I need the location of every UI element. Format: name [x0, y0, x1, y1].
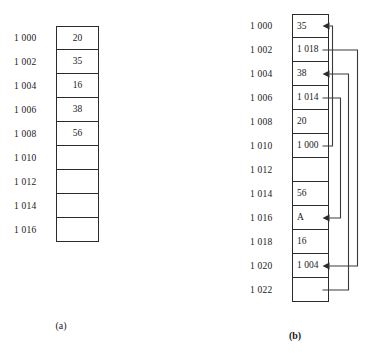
address-label: 1 016: [14, 218, 56, 242]
memory-cell: 1 018: [292, 38, 329, 62]
table-row: 1 004 16: [14, 74, 99, 98]
address-label: 1 004: [250, 62, 292, 86]
memory-cell: 20: [56, 26, 99, 50]
address-label: 1 010: [250, 134, 292, 158]
table-row: 1 014 56: [250, 182, 329, 206]
address-label: 1 016: [250, 206, 292, 230]
address-label: 1 000: [250, 14, 292, 38]
address-label: 1 006: [14, 98, 56, 122]
memory-cell: 35: [292, 14, 329, 38]
memory-cell: 56: [292, 182, 329, 206]
table-row: 1 006 38: [14, 98, 99, 122]
address-label: 1 002: [250, 38, 292, 62]
address-label: 1 014: [250, 182, 292, 206]
memory-table-b: 1 000 35 1 002 1 018 1 004 38 1 006 1 01…: [250, 14, 329, 302]
address-label: 1 002: [14, 50, 56, 74]
memory-cell: 1 000: [292, 134, 329, 158]
table-row: 1 000 35: [250, 14, 329, 38]
table-row: 1 000 20: [14, 26, 99, 50]
memory-cell: [292, 158, 329, 182]
table-row: 1 020 1 004: [250, 254, 329, 278]
memory-cell: 20: [292, 110, 329, 134]
address-label: 1 000: [14, 26, 56, 50]
table-row: 1 022: [250, 278, 329, 302]
table-row: 1 004 38: [250, 62, 329, 86]
table-row: 1 018 16: [250, 230, 329, 254]
memory-cell: [56, 194, 99, 218]
address-label: 1 008: [250, 110, 292, 134]
table-row: 1 016 A: [250, 206, 329, 230]
address-label: 1 012: [14, 170, 56, 194]
table-row: 1 014: [14, 194, 99, 218]
memory-cell: 38: [56, 98, 99, 122]
address-label: 1 022: [250, 278, 292, 302]
memory-cell: [56, 218, 99, 242]
memory-cell: 38: [292, 62, 329, 86]
address-label: 1 010: [14, 146, 56, 170]
table-row: 1 012: [250, 158, 329, 182]
memory-diagram-figure: 1 000 20 1 002 35 1 004 16 1 006 38 1 00…: [0, 0, 370, 354]
address-label: 1 018: [250, 230, 292, 254]
table-row: 1 010 1 000: [250, 134, 329, 158]
table-row: 1 008 20: [250, 110, 329, 134]
address-label: 1 008: [14, 122, 56, 146]
table-row: 1 006 1 014: [250, 86, 329, 110]
address-label: 1 006: [250, 86, 292, 110]
table-row: 1 010: [14, 146, 99, 170]
address-label: 1 014: [14, 194, 56, 218]
table-row: 1 016: [14, 218, 99, 242]
address-label: 1 012: [250, 158, 292, 182]
memory-cell: 1 014: [292, 86, 329, 110]
address-label: 1 020: [250, 254, 292, 278]
memory-cell: 1 004: [292, 254, 329, 278]
memory-cell: 16: [292, 230, 329, 254]
table-row: 1 002 35: [14, 50, 99, 74]
table-row: 1 002 1 018: [250, 38, 329, 62]
table-row: 1 012: [14, 170, 99, 194]
address-label: 1 004: [14, 74, 56, 98]
memory-cell: A: [292, 206, 329, 230]
table-row: 1 008 56: [14, 122, 99, 146]
panel-caption-a: (a): [36, 320, 86, 331]
memory-cell: 56: [56, 122, 99, 146]
memory-cell: [292, 278, 329, 302]
memory-cell: 16: [56, 74, 99, 98]
memory-cell: [56, 170, 99, 194]
memory-table-a: 1 000 20 1 002 35 1 004 16 1 006 38 1 00…: [14, 26, 99, 242]
memory-cell: 35: [56, 50, 99, 74]
panel-caption-b: (b): [270, 330, 320, 341]
memory-cell: [56, 146, 99, 170]
